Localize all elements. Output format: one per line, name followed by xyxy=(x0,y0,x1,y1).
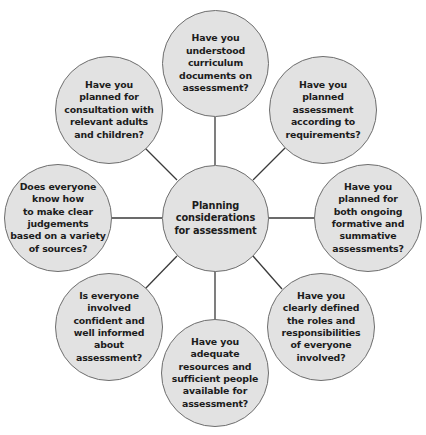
node-left: Does everyone know how to make clear jud… xyxy=(4,164,112,272)
node-left-label: Does everyone know how to make clear jud… xyxy=(10,181,105,255)
node-top-left-label: Have you planned for consultation with r… xyxy=(64,79,154,141)
node-right: Have you planned for both ongoing format… xyxy=(314,164,422,272)
connector-top-left xyxy=(145,148,177,180)
node-bottom: Have you adequate resources and sufficie… xyxy=(161,319,269,427)
connector-top-right xyxy=(253,148,285,180)
node-bottom-right-label: Have you clearly defined the roles and r… xyxy=(282,290,361,364)
center-label: Planning considerations for assessment xyxy=(174,200,256,238)
node-bottom-label: Have you adequate resources and sufficie… xyxy=(172,336,258,410)
node-top-label: Have you understood curriculum documents… xyxy=(179,32,252,94)
connector-bottom-right xyxy=(253,256,282,289)
node-bottom-right: Have you clearly defined the roles and r… xyxy=(267,273,375,381)
node-top-left: Have you planned for consultation with r… xyxy=(55,56,163,164)
node-top-right-label: Have you planned assessment according to… xyxy=(286,79,361,141)
connector-bottom-left xyxy=(145,256,177,289)
node-right-label: Have you planned for both ongoing format… xyxy=(332,181,404,255)
planning-considerations-diagram: Planning considerations for assessment H… xyxy=(0,0,426,435)
node-top-right: Have you planned assessment according to… xyxy=(269,56,377,164)
node-bottom-left-label: Is everyone involved confident and well … xyxy=(73,290,144,364)
node-top: Have you understood curriculum documents… xyxy=(162,10,269,117)
node-bottom-left: Is everyone involved confident and well … xyxy=(55,273,163,381)
center-node: Planning considerations for assessment xyxy=(162,165,269,272)
